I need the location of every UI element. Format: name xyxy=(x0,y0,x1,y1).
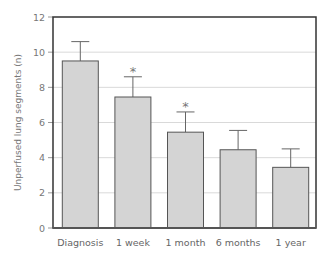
y-tick-label: 2 xyxy=(39,187,45,198)
y-tick-label: 8 xyxy=(39,82,45,93)
x-category-label: 1 year xyxy=(276,237,306,248)
y-tick-label: 10 xyxy=(33,47,45,58)
x-category-label: Diagnosis xyxy=(57,237,103,248)
y-tick-label: 0 xyxy=(39,223,45,234)
y-tick-label: 6 xyxy=(39,117,45,128)
y-tick-label: 4 xyxy=(39,152,45,163)
y-axis-title: Unperfused lung segments (n) xyxy=(13,54,23,191)
x-category-label: 1 week xyxy=(116,237,151,248)
significance-asterisk: * xyxy=(182,99,189,114)
y-tick-label: 12 xyxy=(33,12,45,23)
bar xyxy=(220,150,256,228)
bar xyxy=(115,97,151,228)
x-category-label: 1 month xyxy=(166,237,206,248)
bar xyxy=(168,132,204,228)
bar-chart: 024681012Diagnosis1 week*1 month*6 month… xyxy=(0,0,330,261)
significance-asterisk: * xyxy=(130,64,137,79)
bar xyxy=(62,61,98,228)
bar xyxy=(273,167,309,228)
x-category-label: 6 months xyxy=(216,237,261,248)
